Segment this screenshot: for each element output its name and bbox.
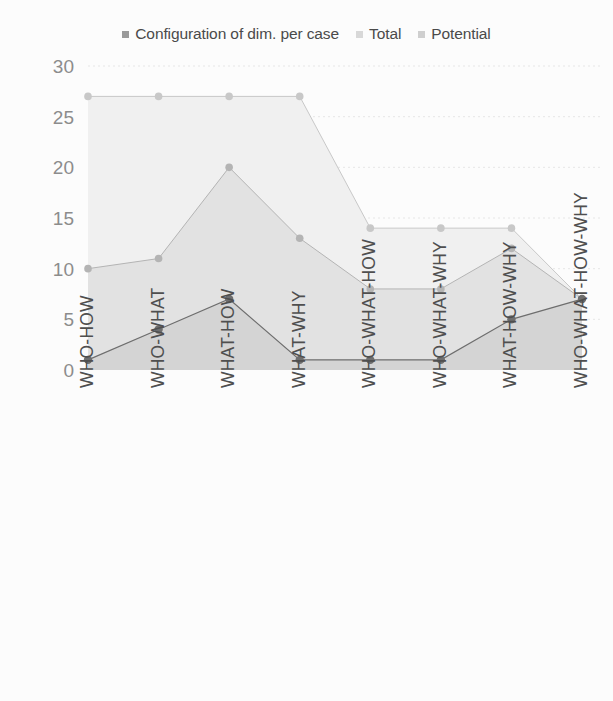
data-point[interactable] (225, 295, 233, 303)
y-tick-label: 10 (12, 259, 74, 278)
area-chart: Configuration of dim. per caseTotalPoten… (0, 0, 613, 701)
y-tick-label: 0 (12, 361, 74, 380)
data-point[interactable] (225, 93, 233, 101)
data-point[interactable] (578, 295, 586, 303)
y-tick-label: 15 (12, 209, 74, 228)
data-point[interactable] (154, 325, 162, 333)
plot-svg (0, 0, 613, 701)
data-point[interactable] (84, 93, 92, 101)
data-point[interactable] (507, 315, 515, 323)
plot-area (0, 0, 613, 701)
data-point[interactable] (296, 234, 304, 242)
data-point[interactable] (508, 224, 516, 232)
y-tick-label: 5 (12, 310, 74, 329)
data-point[interactable] (437, 224, 445, 232)
data-point[interactable] (437, 285, 445, 293)
data-point[interactable] (366, 356, 374, 364)
data-point[interactable] (84, 265, 92, 273)
data-point[interactable] (155, 255, 163, 263)
data-point[interactable] (296, 93, 304, 101)
data-point[interactable] (84, 356, 92, 364)
data-point[interactable] (225, 164, 233, 172)
y-tick-label: 30 (12, 57, 74, 76)
data-point[interactable] (155, 93, 163, 101)
y-tick-label: 25 (12, 107, 74, 126)
data-point[interactable] (296, 356, 304, 364)
data-point[interactable] (366, 285, 374, 293)
data-point[interactable] (366, 224, 374, 232)
data-point[interactable] (508, 245, 516, 253)
data-point[interactable] (437, 356, 445, 364)
y-tick-label: 20 (12, 158, 74, 177)
y-axis: 051015202530 (8, 0, 74, 701)
